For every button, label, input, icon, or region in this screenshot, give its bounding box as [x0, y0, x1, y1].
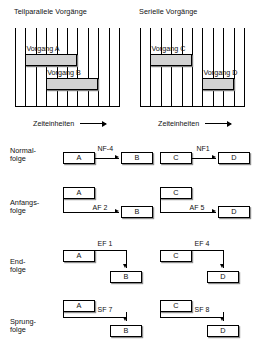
axis-caption-serielle: Zeiteinheiten — [158, 119, 199, 128]
axis-tick — [202, 102, 203, 107]
axis-tick — [67, 102, 68, 107]
arrow-right-icon-anfangsfolge-right — [212, 209, 216, 213]
gantt-gridline — [36, 28, 37, 106]
node-normalfolge-right-to[interactable]: D — [218, 152, 250, 164]
gantt-gridline — [161, 28, 162, 106]
gantt-gridline — [67, 28, 68, 106]
node-sprungfolge-left-to[interactable]: B — [110, 325, 142, 337]
node-normalfolge-right-from[interactable]: C — [160, 152, 192, 164]
gantt-gridline — [15, 28, 16, 106]
node-anfangsfolge-right-to[interactable]: D — [218, 206, 250, 218]
gantt-gridline — [244, 28, 245, 106]
gantt-bar-label-vorgang-b: Vorgang B — [47, 68, 81, 77]
gantt-bar-vorgang-a[interactable] — [25, 54, 77, 66]
arrow-down-icon-sprungfolge-left — [123, 317, 127, 321]
row-label-anfangsfolge: Anfangs- folge — [10, 199, 39, 216]
gantt-gridline — [150, 28, 151, 106]
node-sprungfolge-right-from[interactable]: C — [160, 300, 192, 312]
axis-tick — [57, 102, 58, 107]
gantt-gridline — [171, 28, 172, 106]
axis-caption-teilparallele: Zeiteinheiten — [33, 119, 74, 128]
gantt-gridline — [88, 28, 89, 106]
row-label-normalfolge: Normal- folge — [10, 147, 36, 164]
axis-tick — [171, 102, 172, 107]
axis-tick — [46, 102, 47, 107]
gantt-gridline — [57, 28, 58, 106]
axis-tick — [140, 102, 141, 107]
gantt-bar-vorgang-b[interactable] — [46, 78, 98, 90]
connector-anfangsfolge-right-vertical — [160, 199, 161, 212]
node-endfolge-right-from[interactable]: C — [160, 250, 192, 262]
relation-label-sprungfolge-right: SF 8 — [194, 306, 210, 313]
connector-sprungfolge-right-horizontal — [160, 317, 224, 318]
arrow-right-icon-normalfolge-right — [212, 155, 216, 159]
arrow-down-icon-endfolge-right — [220, 264, 224, 268]
row-label-line2: folge — [10, 326, 36, 334]
relation-label-normalfolge-left: NF-4 — [97, 145, 114, 152]
axis-tick — [192, 102, 193, 107]
gantt-bar-vorgang-c[interactable] — [150, 54, 192, 66]
axis-tick — [234, 102, 235, 107]
gantt-gridline — [182, 28, 183, 106]
gantt-chart-serielle: Vorgang C Vorgang D — [140, 28, 244, 116]
node-normalfolge-left-to[interactable]: B — [121, 152, 153, 164]
arrow-down-icon-sprungfolge-right — [220, 317, 224, 321]
connector-endfolge-left-horizontal — [95, 250, 127, 251]
connector-anfangsfolge-left-vertical — [63, 199, 64, 212]
node-anfangsfolge-left-to[interactable]: B — [121, 206, 153, 218]
axis-tick — [25, 102, 26, 107]
connector-sprungfolge-left-horizontal — [63, 317, 127, 318]
axis-tick — [98, 102, 99, 107]
arrow-down-icon-endfolge-left — [123, 264, 127, 268]
connector-anfangsfolge-left-horizontal — [63, 212, 119, 213]
gantt-gridline — [234, 28, 235, 106]
gantt-gridline — [202, 28, 203, 106]
node-normalfolge-left-from[interactable]: A — [63, 152, 95, 164]
gantt-plot-area — [140, 28, 244, 106]
gantt-bar-label-vorgang-c: Vorgang C — [151, 44, 185, 53]
axis-arrow-icon-right — [205, 123, 231, 124]
gantt-gridline — [213, 28, 214, 106]
node-anfangsfolge-right-from[interactable]: C — [160, 187, 192, 199]
axis-tick — [223, 102, 224, 107]
relation-label-endfolge-right: EF 4 — [194, 240, 210, 247]
node-sprungfolge-left-from[interactable]: A — [63, 300, 95, 312]
gantt-bar-label-vorgang-a: Vorgang A — [26, 44, 59, 53]
gantt-gridline — [25, 28, 26, 106]
arrow-right-icon-anfangsfolge-left — [115, 209, 119, 213]
axis-tick — [213, 102, 214, 107]
connector-endfolge-right-horizontal — [192, 250, 224, 251]
chart-title-teilparallele: Teilparallele Vorgänge — [14, 7, 87, 16]
axis-tick — [36, 102, 37, 107]
axis-tick — [244, 102, 245, 107]
node-sprungfolge-right-to[interactable]: D — [207, 325, 239, 337]
node-endfolge-left-to[interactable]: B — [110, 271, 142, 283]
gantt-gridline — [192, 28, 193, 106]
node-anfangsfolge-left-from[interactable]: A — [63, 187, 95, 199]
axis-arrow-icon-left — [80, 123, 106, 124]
relation-label-anfangsfolge-left: AF 2 — [92, 204, 108, 211]
node-endfolge-right-to[interactable]: D — [207, 271, 239, 283]
axis-tick — [161, 102, 162, 107]
relation-label-sprungfolge-left: SF 7 — [97, 306, 113, 313]
axis-tick — [182, 102, 183, 107]
gantt-gridline — [46, 28, 47, 106]
axis-tick — [119, 102, 120, 107]
gantt-gridline — [140, 28, 141, 106]
axis-tick — [109, 102, 110, 107]
axis-tick — [15, 102, 16, 107]
axis-tick — [88, 102, 89, 107]
row-label-line2: folge — [10, 155, 36, 163]
axis-tick — [150, 102, 151, 107]
relation-label-endfolge-left: EF 1 — [97, 240, 113, 247]
gantt-chart-teilparallele: Vorgang A Vorgang B — [15, 28, 119, 116]
row-label-line2: folge — [10, 266, 26, 274]
gantt-plot-area — [15, 28, 119, 106]
gantt-gridline — [98, 28, 99, 106]
node-endfolge-left-from[interactable]: A — [63, 250, 95, 262]
relation-label-normalfolge-right: NF1 — [196, 145, 210, 152]
relation-label-anfangsfolge-right: AF 5 — [189, 204, 205, 211]
gantt-bar-vorgang-d[interactable] — [202, 78, 233, 90]
gantt-gridline — [223, 28, 224, 106]
connector-anfangsfolge-right-horizontal — [160, 212, 216, 213]
